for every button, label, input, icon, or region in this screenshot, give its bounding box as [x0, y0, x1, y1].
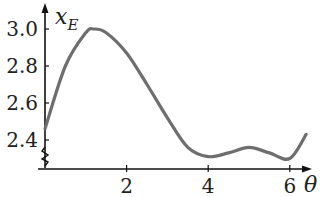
y-axis-ticks: 2.42.62.83.0 — [6, 17, 49, 152]
y-tick-label: 2.6 — [6, 91, 38, 115]
y-axis-arrow-icon — [42, 3, 49, 13]
y-tick-label: 2.8 — [6, 54, 38, 78]
y-tick-label: 2.4 — [6, 128, 38, 152]
x-tick-label: 6 — [283, 174, 296, 197]
data-curve — [45, 29, 306, 160]
x-tick-label: 2 — [120, 174, 133, 197]
chart: 2.42.62.83.0 246 xE θ — [0, 0, 325, 197]
y-axis-label: xE — [55, 4, 78, 34]
x-tick-label: 4 — [202, 174, 215, 197]
y-tick-label: 3.0 — [6, 17, 38, 41]
x-axis-label: θ — [304, 172, 317, 197]
